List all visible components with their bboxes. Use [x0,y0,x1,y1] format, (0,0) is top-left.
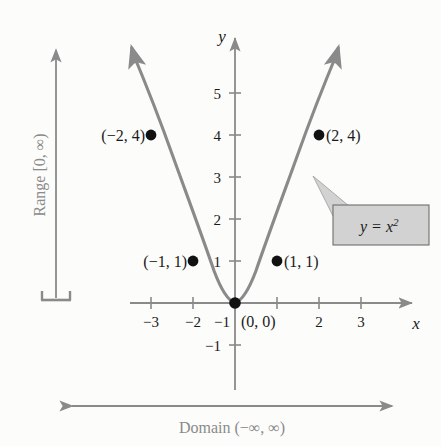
domain-label: Domain (−∞, ∞) [179,419,285,437]
x-tick-label-2: 2 [315,314,323,330]
callout-equation-exponent: 2 [393,216,399,228]
point-label-1-1: (1, 1) [284,253,319,271]
point-label-2-4: (2, 4) [326,127,361,145]
x-tick-label-3: 3 [357,314,365,330]
y-tick-label--1: −1 [205,338,221,354]
point-label-0-0: (0, 0) [241,313,276,331]
point-1-1[interactable] [272,256,283,267]
graph-figure: −3 −2 −1 2 3 −1 1 2 3 4 5 x y [0,0,441,446]
x-axis-name: x [411,314,420,333]
callout-equation-text: y = x2 [358,216,399,236]
x-tick-label--1: −1 [214,314,230,330]
point-label--2-4: (−2, 4) [101,127,145,145]
y-tick-label-5: 5 [214,86,222,102]
point--2-4[interactable] [146,130,157,141]
callout-equation-base: y = x [358,218,393,236]
x-tick-label--2: −2 [185,314,201,330]
y-axis-name: y [216,27,226,46]
x-tick-label--3: −3 [143,314,159,330]
range-label: Range [0, ∞) [31,134,49,217]
y-tick-label-1: 1 [214,254,222,270]
point-label--1-1: (−1, 1) [143,253,187,271]
point--1-1[interactable] [188,256,199,267]
coordinate-plane-graph: −3 −2 −1 2 3 −1 1 2 3 4 5 x y [0,0,441,446]
point-2-4[interactable] [314,130,325,141]
y-tick-label-3: 3 [214,170,222,186]
y-tick-label-2: 2 [214,212,222,228]
point-0-0[interactable] [229,297,241,309]
y-tick-label-4: 4 [214,128,222,144]
